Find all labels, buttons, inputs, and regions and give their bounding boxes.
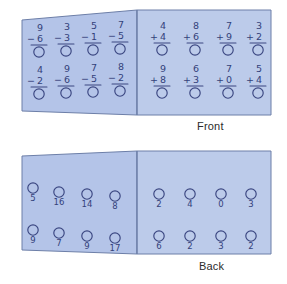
operator-sign: −: [54, 32, 62, 43]
operator-sign: −: [27, 75, 35, 86]
back-caption: Back: [199, 260, 224, 272]
operand-top: 5: [91, 20, 97, 31]
operand-top: 4: [160, 20, 166, 31]
operand-top: 3: [64, 21, 70, 32]
front-card: [22, 10, 271, 115]
operator-sign: +: [246, 74, 254, 85]
front-card-right-panel: [137, 10, 271, 115]
operator-sign: −: [81, 73, 89, 84]
operand-top: 7: [226, 63, 232, 74]
answer-value: 9: [84, 241, 89, 251]
answer-value: 0: [218, 199, 223, 209]
answer-value: 2: [248, 241, 253, 251]
answer-value: 5: [30, 193, 35, 203]
operator-sign: +: [183, 31, 191, 42]
answer-value: 9: [30, 235, 35, 245]
operand-top: 7: [91, 62, 97, 73]
operand-top: 8: [193, 20, 199, 31]
operator-sign: +: [150, 31, 158, 42]
answer-value: 16: [54, 197, 65, 207]
operand-top: 9: [37, 22, 43, 33]
operand-bottom: 5: [91, 73, 97, 84]
operator-sign: +: [150, 74, 158, 85]
operator-sign: +: [246, 31, 254, 42]
operand-bottom: 2: [37, 75, 43, 86]
operand-top: 9: [160, 63, 166, 74]
front-caption: Front: [197, 120, 224, 132]
operand-top: 6: [193, 63, 199, 74]
answer-value: 17: [110, 243, 121, 253]
operator-sign: −: [27, 33, 35, 44]
operator-sign: +: [183, 74, 191, 85]
answer-value: 7: [56, 238, 61, 248]
operand-bottom: 9: [226, 31, 232, 42]
operand-top: 4: [37, 64, 43, 75]
operand-top: 7: [226, 20, 232, 31]
operand-top: 8: [118, 61, 124, 72]
operand-bottom: 6: [37, 33, 43, 44]
answer-value: 8: [112, 201, 117, 211]
folded-card-worksheet-figure: 9 6 − 3 3 − 5 1 −: [0, 0, 287, 284]
answer-value: 3: [218, 241, 223, 251]
operand-top: 7: [118, 19, 124, 30]
operand-bottom: 1: [91, 31, 97, 42]
operand-bottom: 2: [118, 72, 124, 83]
operand-bottom: 5: [118, 30, 124, 41]
operator-sign: −: [54, 74, 62, 85]
operator-sign: +: [216, 74, 224, 85]
operand-bottom: 4: [256, 74, 262, 85]
worksheet-illustration: 9 6 − 3 3 − 5 1 −: [0, 0, 287, 284]
operand-top: 9: [64, 63, 70, 74]
operand-bottom: 6: [64, 74, 70, 85]
answer-value: 3: [248, 199, 253, 209]
answer-value: 2: [187, 241, 192, 251]
operand-bottom: 4: [160, 31, 166, 42]
operator-sign: −: [108, 72, 116, 83]
operator-sign: +: [216, 31, 224, 42]
operand-bottom: 0: [226, 74, 232, 85]
operand-bottom: 2: [256, 31, 262, 42]
answer-value: 14: [82, 199, 93, 209]
operator-sign: −: [81, 31, 89, 42]
operand-bottom: 8: [160, 74, 166, 85]
answer-value: 6: [156, 241, 161, 251]
operand-bottom: 3: [64, 32, 70, 43]
operand-bottom: 6: [193, 31, 199, 42]
operator-sign: −: [108, 30, 116, 41]
answer-value: 4: [187, 199, 192, 209]
operand-bottom: 3: [193, 74, 199, 85]
answer-value: 2: [156, 199, 161, 209]
operand-top: 5: [256, 63, 262, 74]
operand-top: 3: [256, 20, 262, 31]
